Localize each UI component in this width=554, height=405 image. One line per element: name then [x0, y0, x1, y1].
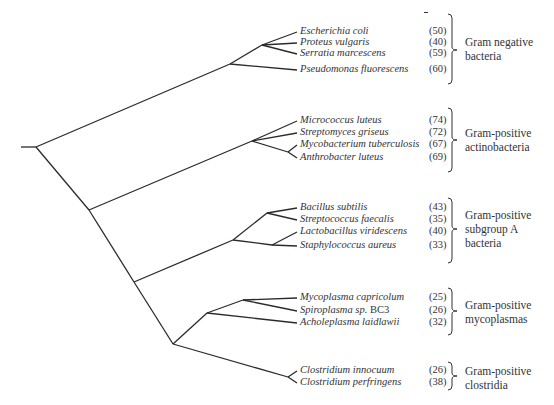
tree-branch	[36, 64, 230, 147]
tree-branch	[173, 344, 288, 377]
group-bracket	[448, 198, 457, 263]
group-bracket	[448, 14, 457, 84]
tick-mark	[424, 12, 428, 13]
group-bracket	[448, 108, 457, 172]
taxon-count: (40)	[429, 225, 447, 237]
group-label: Gram-positivesubgroup Abacteria	[465, 208, 531, 250]
group-label: Gram negativebacteria	[465, 35, 533, 63]
tree-branch	[36, 147, 89, 210]
taxon-count: (35)	[429, 213, 447, 225]
taxon-name: Pseudomonas fluorescens	[300, 63, 408, 75]
taxon-count: (25)	[429, 291, 447, 303]
taxon-name: Mycobacterium tuberculosis	[300, 138, 419, 150]
tree-branch	[288, 377, 297, 383]
taxon-name: Clostridium perfringens	[300, 376, 401, 388]
tree-branch	[207, 300, 243, 313]
taxon-name: Streptococcus faecalis	[300, 213, 394, 225]
tree-branch	[272, 232, 297, 245]
tree-branch	[233, 240, 272, 245]
taxon-count: (72)	[429, 126, 447, 138]
taxon-count: (43)	[429, 201, 447, 213]
taxon-count: (74)	[429, 114, 447, 126]
taxon-name: Clostridium innocuum	[300, 364, 394, 376]
tree-branch	[267, 208, 297, 213]
taxon-count: (67)	[429, 138, 447, 150]
tree-branch	[230, 45, 262, 64]
taxon-count: (59)	[429, 47, 447, 59]
taxon-name: Acholeplasma laidlawii	[300, 316, 399, 328]
tree-branch	[262, 45, 297, 54]
tree-branch	[230, 64, 297, 70]
tree-branch	[233, 213, 267, 240]
tree-branch	[288, 371, 297, 377]
taxon-count: (38)	[429, 376, 447, 388]
taxon-name: Bacillus subtilis	[300, 201, 367, 213]
tree-branch	[252, 133, 297, 141]
group-bracket	[448, 288, 457, 335]
taxon-name: Mycoplasma capricolum	[300, 291, 404, 303]
tree-branch	[173, 313, 207, 344]
taxon-count: (26)	[429, 304, 447, 316]
tree-branch	[243, 300, 297, 311]
tree-branch	[89, 210, 134, 282]
taxon-name: Streptomyces griseus	[300, 126, 389, 138]
taxon-name: Serratia marcescens	[300, 47, 386, 59]
group-label: Gram-positiveclostridia	[465, 364, 531, 392]
tree-branch	[134, 282, 173, 344]
taxon-name: Lactobacillus viridescens	[300, 225, 407, 237]
taxon-name: Staphylococcus aureus	[300, 239, 396, 251]
taxon-count: (32)	[429, 316, 447, 328]
taxon-count: (60)	[429, 63, 447, 75]
group-bracket	[448, 362, 457, 390]
tree-branch	[252, 141, 288, 152]
taxon-count: (33)	[429, 239, 447, 251]
group-label: Gram-positivemycoplasmas	[465, 298, 531, 326]
taxon-count: (26)	[429, 364, 447, 376]
taxon-name: Anthrobacter luteus	[300, 151, 383, 163]
tree-branch	[207, 313, 297, 323]
tree-branch	[288, 145, 297, 152]
tree-branch	[89, 141, 252, 210]
group-label: Gram-positiveactinobacteria	[465, 126, 531, 154]
tree-branch	[288, 152, 297, 158]
tree-branch	[267, 213, 297, 220]
tree-branch	[134, 240, 233, 282]
tree-branch	[272, 245, 297, 246]
taxon-name: Spiroplasma sp. BC3	[300, 304, 389, 316]
taxon-count: (69)	[429, 151, 447, 163]
tree-branch	[243, 298, 297, 300]
tree-branch	[252, 121, 297, 141]
taxon-name: Micrococcus luteus	[300, 114, 382, 126]
